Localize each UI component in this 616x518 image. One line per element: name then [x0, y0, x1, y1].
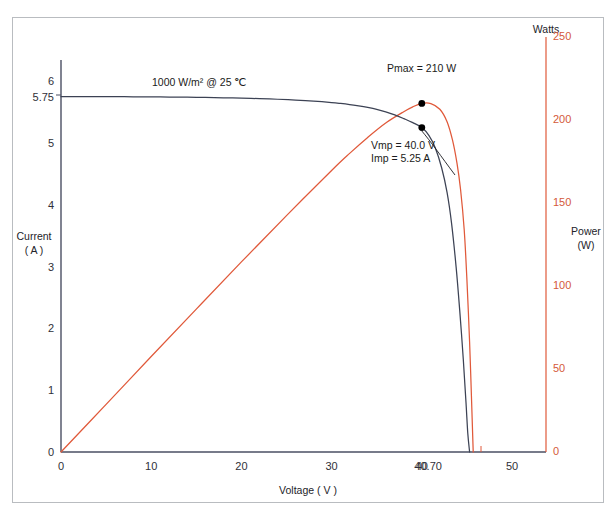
x-tick-label-0: 0	[36, 461, 86, 472]
y-tick-label-0: 0	[14, 447, 54, 458]
y2-tick-label-50: 50	[553, 363, 593, 374]
y-axis-title-line1: Current	[8, 231, 60, 242]
y2-tick-label-250: 250	[553, 31, 593, 42]
x-tick-label-30: 30	[307, 461, 357, 472]
data-marker-layer	[418, 100, 425, 131]
y-tick-label-3: 3	[14, 262, 54, 273]
axis-lines	[61, 37, 546, 452]
y-tick-label-4: 4	[14, 200, 54, 211]
y-tick-label-6: 6	[14, 76, 54, 87]
y2-tick-label-150: 150	[553, 197, 593, 208]
y2-tick-label-0: 0	[553, 446, 593, 457]
y-tick-label-2: 2	[14, 323, 54, 334]
y-tick-label-1: 1	[14, 385, 54, 396]
x-axis-title: Voltage ( V )	[233, 485, 383, 496]
y-tick-label-5: 5	[14, 138, 54, 149]
y2-axis-title-line2: (W)	[562, 240, 610, 251]
y-tick-label-5-75: 5.75	[14, 92, 54, 103]
x-tick-label-40-70: 40.70	[403, 461, 453, 472]
y-axis-title-line2: ( A )	[8, 245, 60, 256]
y2-tick-label-100: 100	[553, 280, 593, 291]
y2-tick-label-200: 200	[553, 114, 593, 125]
y2-axis-title-line1: Power	[562, 226, 610, 237]
x-tick-label-50: 50	[487, 461, 537, 472]
mpp-marker	[418, 124, 425, 131]
pmax-marker	[418, 100, 425, 107]
chart-page: Current ( A ) Voltage ( V ) Watts Power …	[0, 0, 616, 518]
x-tick-label-10: 10	[126, 461, 176, 472]
pmax-annotation: Pmax = 210 W	[387, 63, 456, 74]
chart-plot-svg	[0, 0, 616, 518]
imp-annotation: Imp = 5.25 A	[371, 153, 430, 164]
irradiance-annotation: 1000 W/m² @ 25 ℃	[152, 77, 246, 88]
x-tick-label-20: 20	[216, 461, 266, 472]
vmp-annotation: Vmp = 40.0 V	[371, 140, 435, 151]
